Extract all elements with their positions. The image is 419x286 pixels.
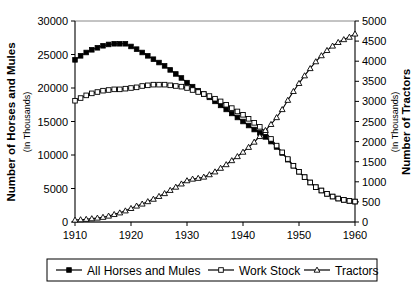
- data-point: [129, 44, 134, 49]
- legend-marker-open-square: [219, 268, 224, 273]
- data-point: [84, 50, 89, 55]
- data-point: [212, 169, 218, 174]
- x-axis-tick-label: 1910: [63, 229, 87, 241]
- data-point: [179, 76, 184, 81]
- legend-label: All Horses and Mules: [87, 264, 200, 278]
- data-point: [213, 96, 218, 101]
- y-axis-right-tick-label: 3500: [362, 75, 386, 87]
- data-point: [196, 90, 201, 95]
- y-axis-right-tick-label: 2000: [362, 136, 386, 148]
- data-point: [118, 87, 123, 92]
- data-point: [280, 150, 285, 155]
- data-point: [342, 198, 347, 203]
- data-point: [157, 82, 162, 87]
- data-point: [140, 84, 145, 89]
- data-point: [202, 92, 207, 97]
- data-point: [279, 107, 285, 112]
- series-line: [75, 44, 355, 202]
- data-point: [146, 83, 151, 88]
- data-point: [258, 125, 263, 130]
- data-point: [123, 41, 128, 46]
- data-point: [224, 107, 229, 112]
- y-axis-right-title: Number of Tractors: [400, 69, 412, 175]
- data-point: [146, 54, 151, 59]
- y-axis-left-tick-label: 0: [62, 216, 68, 228]
- y-axis-right-tick-label: 0: [362, 216, 368, 228]
- line-chart: 050001000015000200002500030000 050010001…: [0, 0, 419, 286]
- y-axis-left-tick-label: 30000: [37, 15, 68, 27]
- data-point: [73, 58, 78, 63]
- data-point: [252, 121, 257, 126]
- data-point: [134, 47, 139, 52]
- data-point: [235, 115, 240, 120]
- data-point: [308, 180, 313, 185]
- data-point: [129, 86, 134, 91]
- data-series-layer: [72, 31, 358, 222]
- data-point: [140, 50, 145, 55]
- data-point: [78, 54, 83, 59]
- data-point: [330, 43, 336, 48]
- data-point: [285, 97, 291, 102]
- data-point: [168, 83, 173, 88]
- data-point: [151, 82, 156, 87]
- data-point: [291, 163, 296, 168]
- y-axis-right-tick-label: 3000: [362, 95, 386, 107]
- data-point: [252, 127, 257, 132]
- x-axis-tick-label: 1920: [119, 229, 143, 241]
- data-point: [118, 41, 123, 46]
- data-point: [229, 158, 235, 163]
- data-point: [207, 94, 212, 99]
- series-work-stock: [73, 82, 358, 204]
- data-point: [84, 93, 89, 98]
- y-axis-right-tick-label: 5000: [362, 15, 386, 27]
- y-axis-left-tick-label: 10000: [37, 149, 68, 161]
- series-markers: [73, 82, 358, 204]
- series-markers: [73, 41, 358, 203]
- data-point: [185, 80, 190, 85]
- data-point: [246, 117, 251, 122]
- data-point: [174, 72, 179, 77]
- data-point: [325, 192, 330, 197]
- data-point: [286, 157, 291, 162]
- y-axis-right-subtitle: (In Thousands): [390, 92, 400, 152]
- y-axis-left: 050001000015000200002500030000: [37, 15, 75, 228]
- y-axis-right-tick-label: 2500: [362, 116, 386, 128]
- y-axis-left-tick-label: 5000: [44, 183, 68, 195]
- data-point: [106, 88, 111, 93]
- x-axis-tick-label: 1960: [343, 229, 367, 241]
- data-point: [90, 91, 95, 96]
- data-point: [319, 188, 324, 193]
- y-axis-right-tick-label: 1000: [362, 176, 386, 188]
- data-point: [101, 88, 106, 93]
- plot-frame: [75, 21, 355, 222]
- data-point: [73, 98, 78, 103]
- data-point: [297, 169, 302, 174]
- legend-label: Work Stock: [239, 264, 301, 278]
- data-point: [95, 90, 100, 95]
- data-point: [78, 96, 83, 101]
- data-point: [190, 88, 195, 93]
- data-point: [162, 64, 167, 69]
- data-point: [112, 41, 117, 46]
- legend-marker-filled-square: [67, 268, 72, 273]
- data-point: [112, 87, 117, 92]
- data-point: [302, 175, 307, 180]
- data-point: [347, 199, 352, 204]
- data-point: [330, 194, 335, 199]
- data-point: [157, 60, 162, 65]
- data-point: [246, 123, 251, 128]
- data-point: [347, 34, 353, 39]
- data-point: [162, 82, 167, 87]
- data-point: [223, 162, 229, 167]
- legend: All Horses and MulesWork StockTractors: [47, 259, 379, 281]
- data-point: [185, 86, 190, 91]
- data-point: [173, 184, 179, 189]
- data-point: [218, 99, 223, 104]
- y-axis-left-subtitle: (In Thousands): [22, 92, 32, 152]
- y-axis-right-tick-label: 4000: [362, 55, 386, 67]
- data-point: [241, 119, 246, 124]
- data-point: [101, 43, 106, 48]
- data-point: [151, 57, 156, 62]
- series-tractors: [72, 31, 358, 222]
- y-axis-left-tick-label: 25000: [37, 49, 68, 61]
